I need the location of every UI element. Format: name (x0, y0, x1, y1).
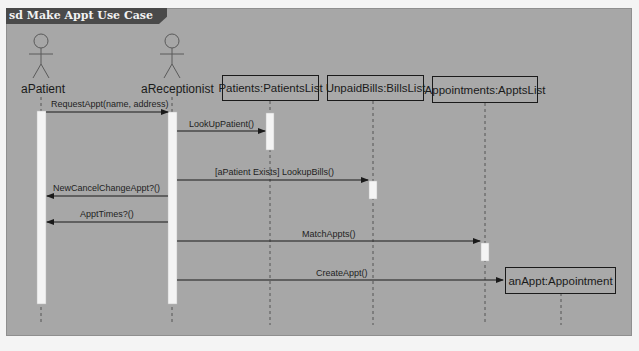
object-appts-list: Appointments:ApptsList (432, 76, 538, 103)
stick-figure-icon (160, 34, 184, 78)
message-label-create-appt: CreateAppt() (316, 268, 368, 278)
message-arrows (46, 112, 503, 280)
message-label-new-cancel-change: NewCancelChangeAppt?() (53, 183, 160, 193)
message-label-lookup-bills: [aPatient Exists] LookupBills() (215, 167, 334, 177)
activation-billslist (369, 181, 377, 199)
message-label-request-appt: RequestAppt(name, address) (51, 99, 169, 109)
stick-figure-icon (29, 34, 53, 78)
message-label-match-appts: MatchAppts() (302, 229, 356, 239)
object-patients-list: Patients:PatientsList (222, 75, 319, 101)
object-appointment: anAppt:Appointment (505, 267, 616, 294)
activation-bars (37, 111, 489, 304)
activation-apatient (37, 111, 46, 304)
actor-label-areceptionist: aReceptionist (141, 82, 214, 96)
actor-label-apatient: aPatient (21, 82, 65, 96)
activation-patientslist (266, 113, 274, 150)
activation-apptslist (481, 243, 489, 261)
message-label-appt-times: ApptTimes?() (80, 209, 134, 219)
message-label-lookup-patient: LookUpPatient() (189, 119, 254, 129)
activation-areceptionist (168, 112, 177, 304)
object-bills-list: UnpaidBills:BillsList (327, 75, 424, 101)
